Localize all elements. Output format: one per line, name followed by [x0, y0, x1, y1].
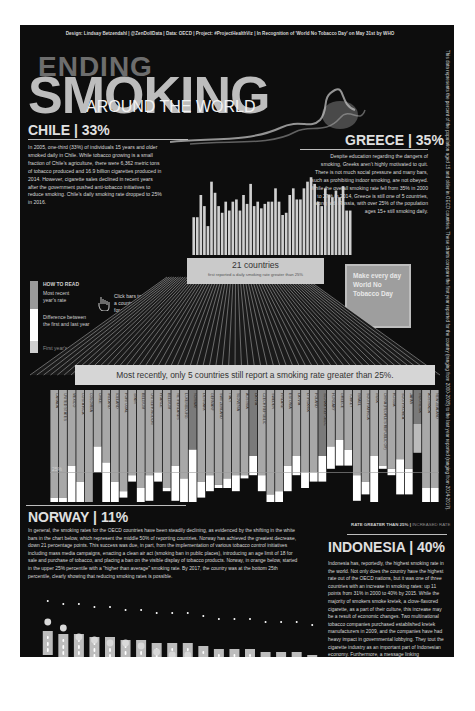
svg-text:CHILE: CHILE [98, 393, 102, 404]
difference-segment [120, 491, 128, 497]
difference-segment [318, 456, 326, 482]
first-year-bar [249, 184, 252, 255]
difference-segment [145, 475, 153, 501]
first-year-bar [260, 208, 263, 255]
first-year-bars[interactable] [192, 160, 352, 255]
first-year-bar [328, 195, 331, 255]
svg-text:POLAND: POLAND [314, 393, 318, 408]
svg-text:INDONESIA: INDONESIA [418, 393, 422, 413]
svg-text:BELGIUM: BELGIUM [167, 393, 171, 409]
difference-segment [379, 466, 387, 469]
first-year-bar [338, 197, 341, 255]
norway-marker [75, 634, 82, 641]
first-year-bar [331, 197, 334, 255]
rate-legend: RATE GREATER THAN 25% | INCREASED RATE [351, 522, 450, 527]
infographic-poster: Design: Lindsay Betzendahl | @ZenDollDat… [20, 25, 454, 657]
first-year-bar [214, 193, 217, 255]
first-year-bar [271, 202, 274, 255]
difference-segment [275, 491, 283, 502]
iqr-box [307, 655, 317, 657]
difference-segment [310, 472, 318, 482]
first-year-bar [200, 195, 203, 255]
svg-text:SPAIN: SPAIN [133, 393, 137, 404]
svg-text:UNITED STATES: UNITED STATES [63, 393, 67, 421]
difference-segment [128, 475, 136, 481]
norway-title: NORWAY | 11% [28, 509, 128, 525]
first-year-bar [310, 177, 313, 255]
first-year-bar [228, 211, 231, 255]
first-year-bar [203, 206, 206, 255]
svg-text:DENMARK: DENMARK [202, 393, 206, 412]
svg-text:GREECE: GREECE [340, 393, 344, 409]
reference-line-25 [50, 472, 439, 473]
first-year-bar [235, 199, 238, 255]
norway-marker [122, 640, 129, 647]
difference-segment [301, 472, 309, 488]
difference-segment [76, 482, 84, 502]
norway-marker [107, 640, 114, 647]
first-year-bar [210, 182, 213, 255]
title-around-the-world: AROUND THE WORLD [86, 99, 256, 115]
first-year-bar [192, 217, 195, 255]
first-year-bar [349, 211, 352, 255]
first-year-bar [292, 188, 295, 255]
difference-segment [197, 482, 205, 498]
svg-text:SWEDEN: SWEDEN [271, 393, 275, 409]
iqr-box [276, 652, 286, 657]
svg-text:LATVIA: LATVIA [254, 393, 258, 406]
difference-segment [171, 466, 179, 501]
greece-rule [300, 149, 428, 150]
difference-segment [50, 498, 58, 502]
norway-marker [138, 643, 145, 650]
difference-segment [344, 450, 352, 466]
difference-segment [241, 475, 249, 478]
yearly-box-plot[interactable]: 2000200120022003200420052006200720082009… [40, 598, 320, 657]
first-year-bar [221, 213, 224, 255]
svg-text:CANADA: CANADA [55, 393, 59, 409]
svg-text:BELGIUM: BELGIUM [141, 393, 145, 409]
first-year-bar [281, 215, 284, 255]
first-year-bar [345, 211, 348, 255]
difference-segment [327, 446, 335, 468]
iqr-box [261, 652, 271, 657]
difference-segment [258, 475, 266, 491]
chile-title: CHILE | 33% [28, 122, 110, 138]
difference-segment [284, 466, 292, 492]
band21-subtitle: first reported a daily smoking rate grea… [187, 272, 324, 277]
svg-text:SOUTH KOREA: SOUTH KOREA [401, 393, 405, 420]
iqr-box [292, 652, 302, 657]
difference-segment [353, 475, 361, 501]
svg-text:NORWAY: NORWAY [193, 393, 197, 409]
first-year-bar [324, 188, 327, 255]
difference-segment [180, 478, 188, 502]
svg-text:FRANCE: FRANCE [159, 393, 163, 408]
svg-text:ICELAND: ICELAND [115, 393, 119, 409]
first-year-bar [224, 202, 227, 255]
legend-increased: INCREASED RATE [412, 522, 450, 527]
svg-text:COSTA RICA: COSTA RICA [81, 393, 85, 415]
svg-text:FINLAND: FINLAND [280, 393, 284, 409]
country-bar-chart[interactable]: CANADAUNITED STATESMEXICOCOSTA RICACOLOM… [50, 390, 439, 502]
norway-marker [91, 637, 98, 644]
country-bar [223, 390, 231, 478]
band-5-countries: Most recently, only 5 countries still re… [75, 365, 435, 385]
first-year-bar [335, 191, 338, 255]
svg-text:CHINA (PEOPLE'S REPUBLIC OF): CHINA (PEOPLE'S REPUBLIC OF) [383, 393, 387, 450]
label-25-percent: 25% [52, 466, 62, 472]
svg-text:LITHUANIA: LITHUANIA [306, 393, 310, 412]
svg-text:MEXICO: MEXICO [72, 393, 76, 407]
difference-segment [232, 475, 240, 491]
svg-text:CZECH REPUBLIC: CZECH REPUBLIC [262, 393, 266, 425]
first-year-bar [264, 204, 267, 255]
svg-text:SLOVENIA: SLOVENIA [236, 393, 240, 412]
svg-text:JAPAN: JAPAN [409, 393, 413, 405]
first-year-bar [296, 199, 299, 255]
norway-rule [26, 505, 186, 506]
svg-text:SLOVAK REPUBLIC: SLOVAK REPUBLIC [323, 393, 327, 426]
difference-segment [215, 485, 223, 488]
first-year-bar [299, 199, 302, 255]
difference-segment [413, 424, 421, 453]
first-year-bar [256, 202, 259, 255]
first-year-bar [306, 182, 309, 255]
svg-text:INDIA: INDIA [375, 393, 379, 403]
